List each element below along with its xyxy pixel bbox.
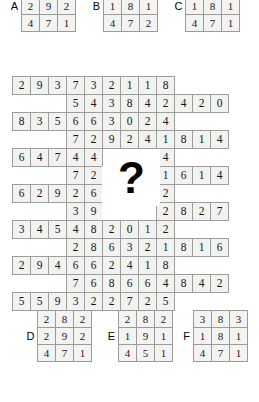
grid-cell: 4: [30, 148, 49, 167]
grid-cell: 2: [84, 292, 103, 311]
grid-cell: 3: [12, 220, 31, 239]
option-cell: 2: [119, 311, 137, 328]
option-cell: 4: [186, 15, 204, 32]
option-cell: 9: [56, 328, 74, 345]
option-cell: 4: [22, 15, 40, 32]
grid-cell: 7: [210, 202, 229, 221]
grid-cell: 8: [120, 94, 139, 113]
option-cell: 1: [186, 0, 204, 15]
option-grid-row: 292: [22, 0, 76, 15]
grid-cell: 2: [12, 256, 31, 275]
grid-cell: 8: [174, 274, 193, 293]
option-cell: 1: [155, 345, 173, 362]
option-cell: 4: [104, 15, 122, 32]
option-grid-row: 181: [186, 0, 240, 15]
option-cell: 2: [22, 0, 40, 15]
grid-cell: 5: [156, 292, 175, 311]
option-label-f: F: [180, 330, 193, 342]
grid-cell: 1: [120, 76, 139, 95]
option-grid-row: 472: [104, 15, 158, 32]
option-cell: 7: [122, 15, 140, 32]
option-cell: 2: [74, 311, 92, 328]
option-cell: 1: [230, 328, 248, 345]
option-grid-a: 882292471: [21, 0, 76, 32]
option-cell: 1: [140, 0, 158, 15]
option-d[interactable]: D282292471: [24, 310, 92, 362]
option-e[interactable]: E282191451: [105, 310, 173, 362]
option-label-c: C: [172, 0, 185, 12]
grid-cell: 4: [156, 112, 175, 131]
grid-cell: 1: [138, 220, 157, 239]
grid-cell: 6: [102, 238, 121, 257]
grid-cell: 4: [138, 130, 157, 149]
option-cell: 7: [212, 345, 230, 362]
option-cell: 8: [56, 311, 74, 328]
grid-cell: 3: [30, 112, 49, 131]
grid-cell: 2: [102, 220, 121, 239]
grid-cell: 9: [102, 130, 121, 149]
option-cell: 4: [194, 345, 212, 362]
grid-cell: 1: [192, 166, 211, 185]
option-grid-row: 282: [119, 311, 173, 328]
option-c[interactable]: C282181471: [172, 0, 240, 32]
grid-cell: 4: [156, 274, 175, 293]
option-grid-row: 451: [119, 345, 173, 362]
grid-cell: 5: [48, 220, 67, 239]
grid-cell: 0: [120, 112, 139, 131]
option-b[interactable]: B282181472: [90, 0, 158, 32]
grid-cell: 2: [12, 76, 31, 95]
grid-cell: 2: [102, 76, 121, 95]
grid-cell: 1: [156, 130, 175, 149]
option-grid-row: 471: [194, 345, 248, 362]
option-cell: 1: [155, 328, 173, 345]
grid-cell: 9: [48, 292, 67, 311]
grid-cell: 3: [66, 202, 85, 221]
grid-cell: 8: [156, 76, 175, 95]
grid-cell: 3: [102, 94, 121, 113]
grid-cell: 2: [84, 166, 103, 185]
option-cell: 2: [155, 311, 173, 328]
grid-cell: 3: [120, 238, 139, 257]
grid-cell: 4: [84, 148, 103, 167]
grid-cell: 7: [120, 292, 139, 311]
grid-cell: 4: [120, 256, 139, 275]
grid-cell: 2: [66, 238, 85, 257]
grid-cell: 4: [30, 220, 49, 239]
option-cell: 8: [204, 0, 222, 15]
option-grid-row: 471: [22, 15, 76, 32]
grid-cell: 6: [120, 274, 139, 293]
grid-cell: 9: [30, 76, 49, 95]
option-label-e: E: [105, 330, 118, 342]
option-grid-b: 282181472: [103, 0, 158, 32]
grid-cell: 3: [84, 76, 103, 95]
grid-cell: 2: [84, 130, 103, 149]
option-grid-row: 383: [194, 311, 248, 328]
option-a[interactable]: A882292471: [8, 0, 76, 32]
option-grid-e: 282191451: [118, 310, 173, 362]
grid-cell: 1: [192, 238, 211, 257]
grid-cell: 0: [210, 94, 229, 113]
option-grid-f: 383181471: [193, 310, 248, 362]
grid-cell: 4: [210, 166, 229, 185]
option-cell: 8: [212, 311, 230, 328]
grid-cell: 8: [156, 256, 175, 275]
option-grid-row: 282: [38, 311, 92, 328]
option-cell: 2: [140, 15, 158, 32]
grid-cell: 9: [48, 184, 67, 203]
option-f[interactable]: F383181471: [180, 310, 248, 362]
grid-cell: 7: [66, 166, 85, 185]
option-cell: 3: [230, 311, 248, 328]
option-cell: 4: [119, 345, 137, 362]
grid-cell: 6: [174, 166, 193, 185]
option-cell: 1: [104, 0, 122, 15]
option-grid-row: 181: [194, 328, 248, 345]
grid-cell: 4: [48, 256, 67, 275]
grid-cell: 7: [66, 274, 85, 293]
grid-cell: 8: [174, 238, 193, 257]
option-grid-row: 292: [38, 328, 92, 345]
grid-cell: 2: [120, 130, 139, 149]
option-grid-row: 191: [119, 328, 173, 345]
grid-cell: 2: [192, 202, 211, 221]
grid-cell: 6: [66, 112, 85, 131]
option-cell: 7: [56, 345, 74, 362]
